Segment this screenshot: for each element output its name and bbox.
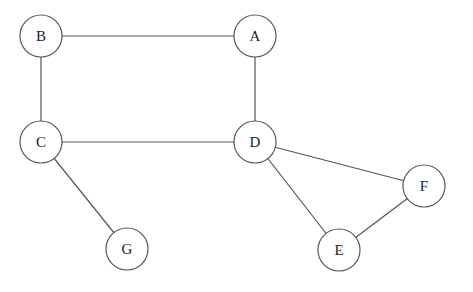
node-label: E: [334, 242, 343, 258]
node-label: G: [122, 241, 133, 257]
nodes-layer: ABCDEFG: [20, 15, 445, 271]
node-label: D: [250, 134, 261, 150]
node-f: F: [403, 165, 445, 207]
node-label: B: [36, 28, 46, 44]
node-d: D: [234, 121, 276, 163]
edges-layer: [41, 36, 424, 250]
node-c: C: [20, 121, 62, 163]
node-g: G: [106, 228, 148, 270]
node-e: E: [318, 229, 360, 271]
node-label: A: [250, 28, 261, 44]
edge-d-f: [255, 142, 424, 186]
node-label: C: [36, 134, 46, 150]
node-b: B: [20, 15, 62, 57]
node-label: F: [420, 178, 428, 194]
node-a: A: [234, 15, 276, 57]
graph-canvas: ABCDEFG: [0, 0, 473, 292]
